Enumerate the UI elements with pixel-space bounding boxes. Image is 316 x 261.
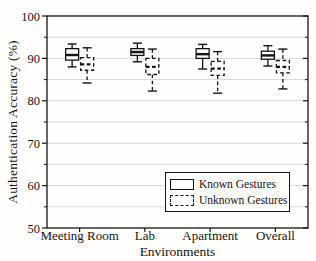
box-unknown-apartment — [211, 52, 224, 94]
box-known-lab — [131, 43, 144, 62]
box-unknown-lab — [146, 49, 159, 91]
y-tick-label: 60 — [28, 179, 41, 193]
y-tick-label: 50 — [28, 222, 41, 236]
x-tick-label: Lab — [135, 228, 155, 243]
dashed-box-swatch-icon — [170, 195, 194, 206]
legend-item-unknown-gestures: Unknown Gestures — [170, 192, 287, 208]
y-axis-title: Authentication Accuracy (%) — [5, 40, 21, 204]
x-tick-label: Overall — [256, 228, 295, 243]
boxplot-figure: 5060708090100Meeting RoomLabApartmentOve… — [0, 0, 316, 261]
legend: Known Gestures Unknown Gestures — [165, 172, 290, 212]
y-tick-label: 90 — [28, 52, 41, 66]
plot-area: 5060708090100Meeting RoomLabApartmentOve… — [0, 0, 316, 261]
box-unknown-overall — [276, 49, 289, 89]
y-tick-label: 100 — [21, 10, 40, 24]
box-known-apartment — [196, 44, 209, 69]
legend-label-known: Known Gestures — [199, 178, 276, 190]
x-tick-label: Meeting Room — [40, 228, 118, 243]
solid-box-swatch-icon — [170, 179, 194, 190]
box-known-overall — [261, 46, 274, 66]
box-known-meeting-room — [66, 44, 79, 67]
legend-item-known-gestures: Known Gestures — [170, 176, 287, 192]
x-tick-label: Apartment — [182, 228, 238, 243]
y-tick-label: 70 — [28, 137, 41, 151]
y-tick-label: 80 — [28, 94, 41, 108]
x-axis-title: Environments — [47, 244, 308, 260]
legend-label-unknown: Unknown Gestures — [199, 194, 287, 206]
box-unknown-meeting-room — [81, 48, 94, 83]
